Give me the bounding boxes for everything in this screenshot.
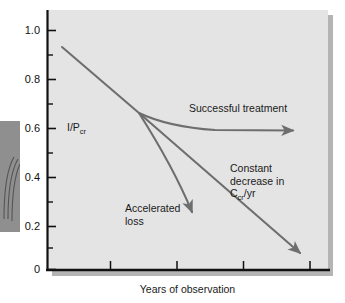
y-axis-variable-subscript: cr bbox=[80, 127, 86, 136]
constant-decrease-line3: Ccr/yr bbox=[230, 187, 284, 200]
x-ticks bbox=[111, 261, 311, 269]
constant-decrease-line1: Constant bbox=[230, 162, 284, 175]
ytick-label-2: 0.8 bbox=[6, 74, 40, 85]
accelerated-loss-line1: Accelerated bbox=[125, 202, 180, 215]
curve-common-decline bbox=[62, 47, 139, 113]
chart-canvas bbox=[0, 0, 345, 303]
ytick-label-4: 0.4 bbox=[6, 172, 40, 183]
constant-decrease-label: Constant decrease in Ccr/yr bbox=[230, 162, 284, 200]
successful-treatment-label: Successful treatment bbox=[189, 102, 287, 115]
x-axis-title: Years of observation bbox=[47, 283, 328, 295]
curve-successful-treatment bbox=[139, 113, 293, 131]
figure-container: 1.0 0.8 0.6 0.4 0.2 0 I/Pcr Successful t… bbox=[0, 0, 345, 303]
ccr-tail: /yr bbox=[244, 187, 256, 199]
ytick-label-6: 0 bbox=[6, 264, 40, 275]
ccr-base: C bbox=[230, 187, 238, 199]
axis-lines bbox=[46, 10, 330, 271]
constant-decrease-line2: decrease in bbox=[230, 175, 284, 188]
accelerated-loss-label: Accelerated loss bbox=[125, 202, 180, 227]
curve-accelerated-loss bbox=[139, 113, 192, 212]
ytick-label-3: 0.6 bbox=[6, 123, 40, 134]
accelerated-loss-line2: loss bbox=[125, 215, 180, 228]
ytick-label-1: 1.0 bbox=[6, 25, 40, 36]
y-axis-variable-base: I/P bbox=[67, 121, 80, 133]
y-axis-variable-label: I/Pcr bbox=[67, 121, 86, 134]
ytick-label-5: 0.2 bbox=[6, 221, 40, 232]
